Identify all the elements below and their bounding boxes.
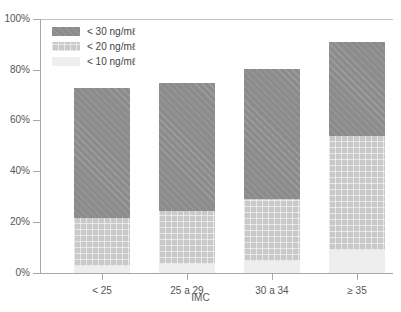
x-axis-tick-2 bbox=[272, 274, 273, 280]
bar-segment-lt-20 bbox=[329, 136, 385, 250]
legend-label-lt-30: < 30 ng/mℓ bbox=[87, 26, 135, 37]
legend-item-lt-10: < 10 ng/mℓ bbox=[52, 55, 135, 68]
legend-item-lt-30: < 30 ng/mℓ bbox=[52, 25, 135, 38]
bar-segment-lt-10 bbox=[329, 250, 385, 273]
legend-swatch-icon-lt-30 bbox=[52, 27, 80, 36]
legend: < 30 ng/mℓ < 20 ng/mℓ < 10 ng/mℓ bbox=[52, 25, 135, 70]
y-axis-tick-40 bbox=[33, 171, 40, 172]
y-axis-label-100: 100% bbox=[4, 14, 30, 24]
x-axis-title: IMC bbox=[0, 292, 401, 303]
bar-segment-lt-30 bbox=[244, 69, 300, 199]
bar-group-30-a-34 bbox=[244, 69, 300, 273]
legend-swatch-icon-lt-20 bbox=[52, 42, 80, 51]
x-axis-line bbox=[40, 273, 393, 274]
stacked-bar-chart: 100% 80% 60% 40% 20% 0% < 25 25 a 29 30 … bbox=[0, 0, 401, 312]
y-axis-label-40: 40% bbox=[10, 166, 30, 176]
y-axis-tick-100 bbox=[33, 19, 40, 20]
legend-item-lt-20: < 20 ng/mℓ bbox=[52, 40, 135, 53]
x-axis-tick-3 bbox=[357, 274, 358, 280]
y-axis-tick-0 bbox=[33, 273, 40, 274]
y-axis-line bbox=[40, 19, 41, 274]
bar-group-lt-25 bbox=[74, 88, 130, 273]
legend-swatch-icon-lt-10 bbox=[52, 57, 80, 66]
y-axis-label-20: 20% bbox=[10, 217, 30, 227]
y-axis-tick-20 bbox=[33, 222, 40, 223]
bar-segment-lt-30 bbox=[329, 42, 385, 136]
bar-segment-lt-10 bbox=[244, 261, 300, 273]
bar-segment-lt-20 bbox=[244, 199, 300, 261]
bar-group-gte-35 bbox=[329, 42, 385, 273]
bar-segment-lt-10 bbox=[74, 266, 130, 273]
bar-group-25-a-29 bbox=[159, 83, 215, 273]
y-axis-tick-80 bbox=[33, 70, 40, 71]
plot-top-rule bbox=[40, 19, 393, 20]
x-axis-tick-0 bbox=[102, 274, 103, 280]
legend-label-lt-20: < 20 ng/mℓ bbox=[87, 41, 135, 52]
bar-segment-lt-20 bbox=[159, 211, 215, 264]
bar-segment-lt-30 bbox=[74, 88, 130, 218]
y-axis-label-80: 80% bbox=[10, 65, 30, 75]
y-axis-label-0: 0% bbox=[16, 268, 30, 278]
x-axis-tick-1 bbox=[187, 274, 188, 280]
legend-label-lt-10: < 10 ng/mℓ bbox=[87, 56, 135, 67]
bar-segment-lt-30 bbox=[159, 83, 215, 211]
bar-segment-lt-20 bbox=[74, 218, 130, 266]
y-axis-label-60: 60% bbox=[10, 115, 30, 125]
bar-segment-lt-10 bbox=[159, 264, 215, 273]
y-axis-tick-60 bbox=[33, 120, 40, 121]
